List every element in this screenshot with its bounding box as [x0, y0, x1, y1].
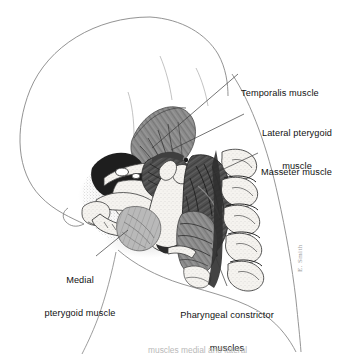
caption-strip: muscles medial and lateral [0, 346, 356, 358]
anatomical-figure: Temporalis muscle Lateral pterygoid musc… [0, 0, 356, 358]
label-medial-pterygoid-line-1: Medial [24, 275, 136, 286]
label-medial-pterygoid-muscle: Medial pterygoid muscle [24, 253, 136, 341]
label-masseter-line-1: Masseter muscle [261, 167, 332, 178]
label-temporalis-line-1: Temporalis muscle [241, 88, 319, 99]
medial-pterygoid-muscle-shape [117, 206, 161, 250]
artist-signature: E. Smith [296, 244, 304, 272]
caption-text: muscles medial and lateral [148, 346, 247, 355]
label-masseter-muscle: Masseter muscle [261, 145, 332, 200]
label-medial-pterygoid-line-2: pterygoid muscle [24, 308, 136, 319]
label-lateral-pterygoid-line-1: Lateral pterygoid [247, 128, 347, 139]
label-pharyngeal-line-1: Pharyngeal constrictor [168, 310, 286, 321]
